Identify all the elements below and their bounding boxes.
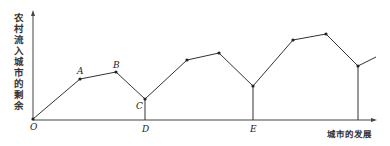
point-c-label: C <box>136 101 143 111</box>
curve-points <box>31 32 359 120</box>
y-axis-arrow-icon <box>31 10 35 16</box>
x-axis-arrow-icon <box>371 118 377 122</box>
surplus-curve <box>33 34 376 119</box>
origin-label: O <box>30 122 37 132</box>
point-d-label: D <box>142 124 149 134</box>
x-axis-label: 城市的发展 <box>327 127 372 139</box>
point-e-label: E <box>250 124 257 134</box>
point-a-label: A <box>77 66 84 76</box>
y-axis-label: 农村流入城市的剩余 <box>12 12 26 111</box>
point-b-label: B <box>113 60 120 70</box>
surplus-diagram <box>0 0 390 146</box>
